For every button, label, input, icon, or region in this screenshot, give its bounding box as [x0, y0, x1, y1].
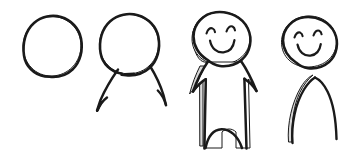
figure-step-3 — [190, 12, 257, 149]
sketch-illustration: How to draw a cartoon character - four p… — [0, 0, 357, 155]
figure-step-1 — [23, 16, 82, 77]
step-3-left-leg-outer — [204, 79, 205, 148]
drawing-canvas — [0, 0, 357, 155]
